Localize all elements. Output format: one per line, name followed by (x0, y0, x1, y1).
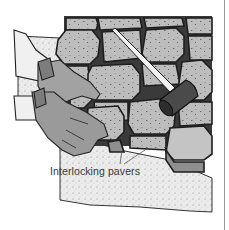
paver-label: Interlocking pavers (50, 165, 140, 177)
paver-illustration (0, 0, 229, 230)
page-edge-divider (224, 0, 225, 230)
